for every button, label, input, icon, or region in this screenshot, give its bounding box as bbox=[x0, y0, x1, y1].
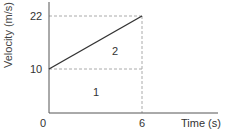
region-1-label: 1 bbox=[93, 87, 99, 98]
origin-label: 0 bbox=[40, 118, 46, 129]
velocity-line bbox=[49, 16, 142, 69]
x-tick-6: 6 bbox=[139, 118, 145, 129]
y-axis-label: Velocity (m/s) bbox=[2, 0, 14, 70]
y-tick-22: 22 bbox=[30, 11, 42, 22]
x-axis-label: Time (s) bbox=[181, 118, 221, 129]
region-2-label: 2 bbox=[112, 46, 118, 57]
y-tick-10: 10 bbox=[30, 64, 42, 75]
